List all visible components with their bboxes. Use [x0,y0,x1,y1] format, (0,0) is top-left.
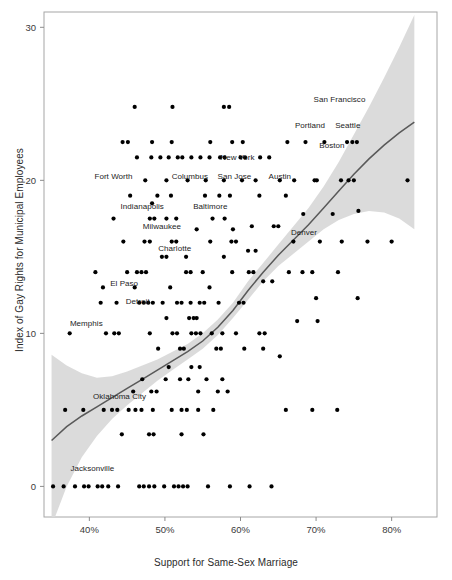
data-point [82,484,86,488]
data-point [230,270,234,274]
data-point [189,301,193,305]
data-point [189,155,193,159]
data-point [68,331,72,335]
data-point [176,484,180,488]
data-point [164,178,168,182]
data-point [62,484,66,488]
data-point [189,331,193,335]
city-label: San Jose [218,171,252,180]
data-point [106,484,110,488]
data-point [352,178,356,182]
data-point [300,270,304,274]
x-tick-label: 80% [382,524,401,535]
data-point [150,140,154,144]
data-point [158,155,162,159]
city-label: Austin [269,171,292,180]
data-point [135,155,139,159]
data-point [121,140,125,144]
data-point [137,484,141,488]
data-point [151,301,155,305]
data-point [263,331,267,335]
data-point [201,270,205,274]
data-point [312,178,316,182]
data-point [170,105,174,109]
data-point [186,377,190,381]
data-point [178,377,182,381]
data-point [208,140,212,144]
data-point [257,194,261,198]
data-point [121,239,125,243]
data-point [315,319,319,323]
y-axis-ticks [40,27,44,486]
city-label: El Paso [110,278,138,287]
city-label: Portland [295,121,325,130]
data-point [246,249,250,253]
data-point [270,279,274,283]
city-label: Detroit [126,297,150,306]
city-label: Oklahoma City [93,392,146,401]
data-point [204,377,208,381]
data-point [272,224,276,228]
data-point [144,270,148,274]
panel-border [44,12,437,517]
data-point [179,408,183,412]
data-point [169,194,173,198]
data-point [116,484,120,488]
x-tick-label: 70% [307,524,326,535]
x-axis-title: Support for Same-Sex Marriage [0,557,452,568]
data-point [216,389,220,393]
data-point [170,331,174,335]
data-point [222,105,226,109]
data-point [125,270,129,274]
city-label: Memphis [70,318,103,327]
data-point [226,389,230,393]
data-point [257,331,261,335]
data-point [73,484,77,488]
data-point [140,377,144,381]
data-point [143,178,147,182]
data-point [231,227,235,231]
data-point [180,155,184,159]
city-label: Indianapolis [121,202,164,211]
data-point [126,140,130,144]
data-point [292,178,296,182]
data-point [133,105,137,109]
data-point [228,194,232,198]
data-point [202,301,206,305]
data-point [287,270,291,274]
data-point [184,255,188,259]
data-point [149,155,153,159]
data-point [336,270,340,274]
data-point [230,140,234,144]
data-point [223,216,227,220]
data-point [356,209,360,213]
data-point [196,389,200,393]
data-point [114,301,118,305]
data-point [120,432,124,436]
data-point [216,301,220,305]
data-point [110,408,114,412]
data-point [152,484,156,488]
data-point [269,484,273,488]
data-point [314,296,318,300]
data-point [93,270,97,274]
data-point [331,212,335,216]
data-point [250,224,254,228]
plot-canvas [0,0,452,580]
data-point [139,270,143,274]
data-point [261,347,265,351]
data-point [149,389,153,393]
data-point [211,408,215,412]
data-point [152,216,156,220]
data-point [201,432,205,436]
data-point [147,484,151,488]
data-point [128,194,132,198]
data-point [241,301,245,305]
data-point [96,484,100,488]
data-point [241,140,245,144]
data-point [229,239,233,243]
city-label: Jacksonville [70,464,114,473]
data-point [175,301,179,305]
data-point [63,408,67,412]
data-point [345,140,349,144]
